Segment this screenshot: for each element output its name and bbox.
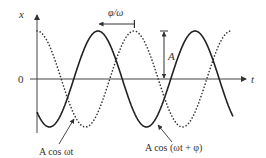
amplitude-label: A [167,50,175,62]
reference-curve-pointer [59,119,74,144]
phase-shift-annotation: φ/ω [99,7,134,24]
axis-x-label: x [18,8,24,20]
shifted-curve-label: A cos (ωt + φ) [145,142,202,154]
phase-shift-diagram: x 0 t φ/ω A A cos ωt A cos (ωt + φ) [0,0,266,158]
axes [30,15,246,133]
axis-t-label: t [251,73,255,85]
phase-shift-label: φ/ω [108,7,123,18]
shifted-curve-pointer [158,125,172,142]
reference-curve-label: A cos ωt [39,146,74,157]
origin-label: 0 [18,73,24,85]
